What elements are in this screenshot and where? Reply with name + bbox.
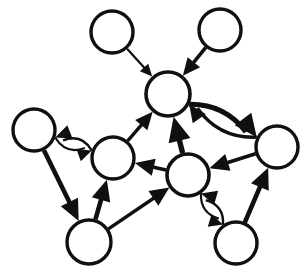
node-right[interactable] <box>256 126 298 168</box>
node-top-right[interactable] <box>199 9 241 51</box>
node-hub[interactable] <box>146 72 190 116</box>
graph-canvas <box>0 0 307 271</box>
node-left-middle[interactable] <box>92 137 134 179</box>
directed-graph-figure <box>0 0 307 271</box>
node-bottom-right[interactable] <box>215 222 257 264</box>
node-left[interactable] <box>13 109 55 151</box>
node-bottom-left[interactable] <box>67 220 111 264</box>
node-center-bottom[interactable] <box>167 154 209 196</box>
node-top-left[interactable] <box>91 11 133 53</box>
